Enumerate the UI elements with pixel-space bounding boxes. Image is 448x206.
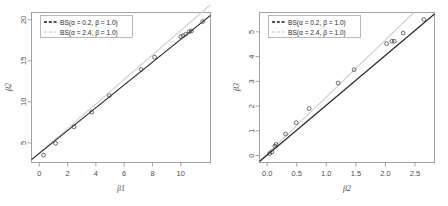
x-tick-label: 2.0 <box>380 169 390 178</box>
y-tick-label: 3 <box>247 79 256 83</box>
x-tick-label: 1.5 <box>351 169 361 178</box>
y-tick-label: 10 <box>19 98 28 106</box>
legend-label-1: BS(α = 0.2, β = 1.0) <box>60 19 118 27</box>
legend-label-2: BS(α = 2.4, β = 1.0) <box>60 29 118 37</box>
data-point <box>294 121 298 125</box>
y-tick-label: 1 <box>247 129 256 133</box>
right-x-axis-ticks: 0.00.51.01.52.02.5 <box>262 163 420 178</box>
data-point <box>401 31 405 35</box>
x-tick-label: 0 <box>37 169 41 178</box>
x-tick-label: 0.0 <box>262 169 272 178</box>
legend-label-1: BS(α = 0.2, β = 1.0) <box>288 19 346 27</box>
x-tick-label: 10 <box>177 169 185 178</box>
data-point <box>153 55 157 59</box>
y-tick-label: 5 <box>19 141 28 145</box>
y-tick-label: 2 <box>247 104 256 108</box>
data-point <box>284 132 288 136</box>
right-y-axis-title: β3 <box>232 83 241 92</box>
legend-label-2: BS(α = 2.4, β = 1.0) <box>288 29 346 37</box>
data-point <box>307 107 311 111</box>
y-tick-label: 5 <box>247 30 256 34</box>
x-tick-label: 2.5 <box>410 169 420 178</box>
left-x-axis-title: β1 <box>116 184 125 193</box>
y-tick-label: 0 <box>247 153 256 157</box>
x-tick-label: 8 <box>150 169 154 178</box>
y-tick-label: 4 <box>247 54 256 58</box>
right-scatter-panel: 012345 0.00.51.01.52.02.5 BS(α = 0.2, β … <box>224 0 448 206</box>
data-point <box>336 81 340 85</box>
data-point <box>42 153 46 157</box>
left-y-axis-ticks: 5101520 <box>19 16 31 145</box>
x-tick-label: 2 <box>65 169 69 178</box>
data-point <box>54 141 58 145</box>
x-tick-label: 0.5 <box>292 169 302 178</box>
data-point <box>385 42 389 46</box>
y-tick-label: 15 <box>19 57 28 65</box>
left-x-axis-ticks: 0246810 <box>37 163 185 178</box>
x-tick-label: 4 <box>94 169 98 178</box>
scatter-plot-figure: 5101520 0246810 BS(α = 0.2, β = 1.0) BS(… <box>0 0 448 206</box>
y-tick-label: 20 <box>19 16 28 24</box>
x-tick-label: 1.0 <box>321 169 331 178</box>
right-x-axis-title: β2 <box>342 184 351 193</box>
left-scatter-panel: 5101520 0246810 BS(α = 0.2, β = 1.0) BS(… <box>0 0 224 206</box>
data-point <box>422 18 426 22</box>
left-y-axis-title: β2 <box>4 83 13 92</box>
right-legend: BS(α = 0.2, β = 1.0) BS(α = 2.4, β = 1.0… <box>269 16 361 38</box>
data-point <box>392 39 396 43</box>
right-y-axis-ticks: 012345 <box>247 30 259 158</box>
x-tick-label: 6 <box>122 169 126 178</box>
left-legend: BS(α = 0.2, β = 1.0) BS(α = 2.4, β = 1.0… <box>41 16 133 38</box>
